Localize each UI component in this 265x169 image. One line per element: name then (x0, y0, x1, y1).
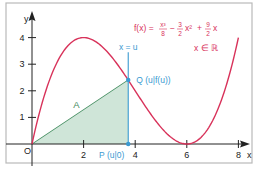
formula-op1: − (170, 23, 175, 33)
y-tick-label: 2 (19, 86, 24, 96)
area-a-label: A (73, 99, 80, 110)
y-tick-label: 3 (19, 59, 24, 69)
function-plot: 2468 1234 y x O x = u Q (u|f(u)) P (u|0)… (0, 0, 265, 169)
formula-term1-denominator: 8 (161, 30, 165, 37)
formula-term1-numerator: x³ (160, 21, 166, 28)
point-q-label: Q (u|f(u)) (136, 75, 170, 85)
point-q-marker (126, 78, 130, 82)
domain-label: x ∈ ℝ (194, 43, 218, 53)
formula-term2-denominator: 2 (178, 30, 182, 37)
vertical-line-label: x = u (119, 42, 138, 52)
formula-lhs: f(x) = (134, 23, 154, 33)
x-tick-label: 6 (184, 150, 189, 160)
origin-label: O (24, 146, 31, 156)
formula-term2-var: x² (185, 23, 192, 33)
x-axis-label: x (247, 150, 252, 160)
plot-canvas: 2468 1234 y x O x = u Q (u|f(u)) P (u|0)… (0, 0, 265, 169)
formula-op2: + (197, 23, 202, 33)
point-p-label: P (u|0) (99, 150, 124, 160)
y-tick-label: 4 (19, 33, 24, 43)
x-tick-label: 4 (133, 150, 138, 160)
formula-term3-numerator: 9 (206, 21, 210, 28)
formula-term2-numerator: 3 (178, 21, 182, 28)
point-p-marker (126, 142, 130, 146)
formula-term3-denominator: 2 (206, 30, 210, 37)
x-tick-label: 2 (81, 150, 86, 160)
y-tick-label: 1 (19, 112, 24, 122)
y-axis-label: y (24, 14, 29, 24)
x-tick-label: 8 (236, 150, 241, 160)
